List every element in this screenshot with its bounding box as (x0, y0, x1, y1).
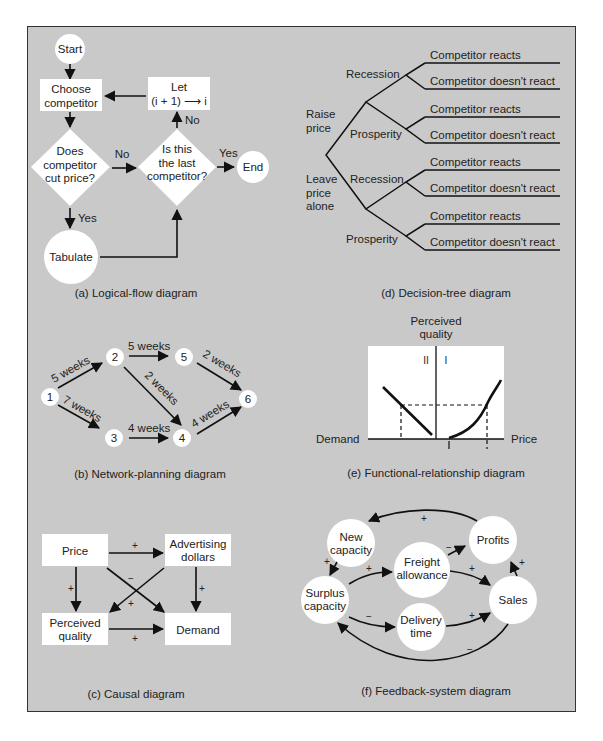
node-6: 6 (245, 393, 251, 405)
svg-text:Price: Price (511, 433, 537, 445)
svg-text:Choose: Choose (51, 83, 91, 95)
svg-text:Competitor doesn't react: Competitor doesn't react (430, 75, 556, 87)
caption-b: (b) Network-planning diagram (74, 468, 225, 480)
caption-f: (f) Feedback-system diagram (361, 685, 511, 697)
svg-text:7 weeks: 7 weeks (61, 393, 104, 424)
svg-text:Competitor reacts: Competitor reacts (430, 49, 521, 61)
svg-text:−: − (366, 611, 372, 622)
svg-text:quality: quality (58, 630, 91, 642)
svg-text:alone: alone (306, 200, 334, 212)
svg-text:−: − (467, 644, 473, 655)
svg-text:Competitor reacts: Competitor reacts (430, 156, 521, 168)
svg-text:Price: Price (62, 545, 88, 557)
svg-text:Perceived: Perceived (49, 617, 100, 629)
svg-text:Prosperity: Prosperity (350, 128, 402, 140)
start-label: Start (58, 43, 83, 55)
svg-text:No: No (115, 148, 130, 160)
svg-text:4 weeks: 4 weeks (128, 422, 170, 434)
node-5: 5 (181, 351, 187, 363)
svg-text:(i + 1) ⟶ i: (i + 1) ⟶ i (151, 95, 207, 107)
svg-text:quality: quality (419, 328, 452, 340)
svg-text:Demand: Demand (176, 624, 219, 636)
svg-text:Leave: Leave (306, 173, 337, 185)
causal-diagram: Price Advertising dollars Perceived qual… (42, 534, 231, 700)
svg-text:+: + (199, 583, 205, 594)
svg-text:I: I (445, 355, 448, 366)
svg-text:+: + (324, 556, 330, 567)
svg-text:Competitor doesn't react: Competitor doesn't react (430, 129, 556, 141)
caption-c: (c) Causal diagram (87, 688, 184, 700)
svg-text:Perceived: Perceived (410, 315, 461, 327)
network-planning-diagram: 1 2 3 4 5 6 5 weeks 7 weeks 5 weeks 2 we… (41, 340, 257, 480)
svg-text:2 weeks: 2 weeks (201, 347, 244, 379)
node-1: 1 (47, 391, 53, 403)
svg-text:the last: the last (158, 157, 196, 169)
svg-text:New: New (339, 531, 363, 543)
new-capacity-node (327, 519, 375, 567)
svg-text:Raise: Raise (306, 108, 335, 120)
caption-e: (e) Functional-relationship diagram (347, 467, 525, 479)
svg-text:Sales: Sales (499, 594, 528, 606)
svg-text:price: price (306, 187, 331, 199)
svg-text:capacity: capacity (304, 600, 346, 612)
svg-text:−: − (128, 573, 134, 584)
svg-text:Competitor reacts: Competitor reacts (430, 210, 521, 222)
svg-text:Does: Does (57, 145, 84, 157)
caption-a: (a) Logical-flow diagram (75, 287, 198, 299)
svg-text:Competitor reacts: Competitor reacts (430, 103, 521, 115)
svg-text:Prosperity: Prosperity (346, 233, 398, 245)
svg-text:+: + (469, 610, 475, 621)
caption-d: (d) Decision-tree diagram (381, 287, 511, 299)
svg-text:Recession: Recession (350, 173, 404, 185)
svg-text:Delivery: Delivery (400, 614, 442, 626)
svg-text:2 weeks: 2 weeks (143, 369, 181, 407)
functional-relationship-diagram: Perceived quality II I Demand Price (e) … (316, 315, 537, 479)
svg-text:Yes: Yes (219, 147, 238, 159)
svg-text:Tabulate: Tabulate (49, 251, 92, 263)
svg-text:Advertising: Advertising (170, 538, 227, 550)
svg-text:Recession: Recession (346, 68, 400, 80)
svg-text:+: + (366, 563, 372, 574)
svg-text:price: price (306, 122, 331, 134)
svg-text:competitor: competitor (44, 97, 98, 109)
svg-text:−: − (446, 542, 452, 553)
svg-text:Demand: Demand (316, 433, 359, 445)
svg-text:cut price?: cut price? (45, 172, 95, 184)
svg-text:Is this: Is this (162, 143, 192, 155)
svg-text:capacity: capacity (330, 544, 372, 556)
svg-text:+: + (519, 557, 525, 568)
svg-text:5 weeks: 5 weeks (128, 340, 170, 352)
diagram-canvas: Start Choose competitor Let (i + 1) ⟶ i … (0, 0, 603, 741)
svg-text:+: + (128, 598, 134, 609)
svg-text:Competitor doesn't react: Competitor doesn't react (430, 236, 556, 248)
svg-text:allowance: allowance (396, 569, 447, 581)
svg-text:Yes: Yes (78, 212, 97, 224)
svg-text:+: + (132, 633, 138, 644)
svg-text:Surplus: Surplus (306, 587, 345, 599)
svg-text:dollars: dollars (181, 551, 215, 563)
svg-text:+: + (421, 513, 427, 524)
node-2: 2 (112, 351, 118, 363)
svg-text:competitor: competitor (43, 159, 97, 171)
node-3: 3 (111, 432, 117, 444)
node-4: 4 (179, 432, 186, 444)
svg-text:No: No (185, 114, 200, 126)
logical-flow-diagram: Start Choose competitor Let (i + 1) ⟶ i … (31, 34, 269, 299)
svg-text:Competitor doesn't react: Competitor doesn't react (430, 182, 556, 194)
svg-text:Let: Let (171, 81, 188, 93)
decision-tree-labels: Raise price Leave price alone Recession … (306, 49, 556, 299)
svg-text:+: + (469, 563, 475, 574)
feedback-system-diagram: New capacity Profits Freight allowance S… (301, 510, 537, 697)
svg-text:+: + (132, 540, 138, 551)
svg-text:+: + (68, 583, 74, 594)
svg-text:Freight: Freight (404, 556, 441, 568)
svg-text:competitor?: competitor? (147, 170, 207, 182)
svg-text:4 weeks: 4 weeks (189, 398, 232, 430)
svg-text:time: time (410, 627, 432, 639)
svg-text:II: II (423, 355, 429, 366)
svg-text:End: End (243, 161, 263, 173)
svg-text:Profits: Profits (477, 534, 510, 546)
